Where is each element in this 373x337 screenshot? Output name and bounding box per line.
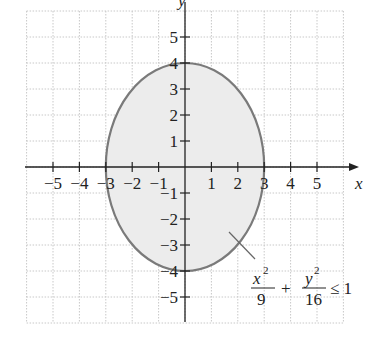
y-tick-label: −4 (160, 262, 179, 281)
y-tick-label: 4 (170, 54, 179, 73)
y-tick-label: −3 (160, 236, 178, 255)
x-tick-label: 5 (313, 174, 322, 193)
y-tick-label: 2 (170, 106, 179, 125)
x-tick-label: −4 (70, 174, 89, 193)
x-tick-label: 2 (234, 174, 243, 193)
ann-x-exp: 2 (263, 264, 269, 276)
y-tick-label: −2 (160, 210, 178, 229)
ann-y-den: 16 (305, 290, 322, 309)
y-tick-label: −5 (160, 288, 178, 307)
ann-y-num: y (303, 269, 313, 288)
y-tick-label: 3 (170, 80, 179, 99)
x-tick-label: −2 (123, 174, 141, 193)
x-tick-label: 3 (260, 174, 269, 193)
x-tick-label: −3 (97, 174, 115, 193)
y-tick-label: 5 (170, 28, 179, 47)
chart-container: −5−4−3−2−112345−5−4−3−2−112345 x y x 2 9… (0, 0, 373, 337)
y-axis-label: y (176, 0, 186, 10)
ann-plus: + (281, 279, 291, 298)
x-axis-label: x (354, 174, 363, 193)
x-tick-label: 1 (207, 174, 216, 193)
ann-x-num: x (252, 269, 261, 288)
y-tick-label: −1 (160, 184, 178, 203)
y-tick-label: 1 (170, 132, 179, 151)
x-tick-label: −5 (44, 174, 62, 193)
ann-rel: ≤ 1 (330, 279, 352, 298)
ann-x-den: 9 (257, 290, 266, 309)
x-tick-label: 4 (286, 174, 295, 193)
ellipse-inequality-plot: −5−4−3−2−112345−5−4−3−2−112345 x y x 2 9… (0, 0, 373, 337)
ann-y-exp: 2 (314, 264, 320, 276)
